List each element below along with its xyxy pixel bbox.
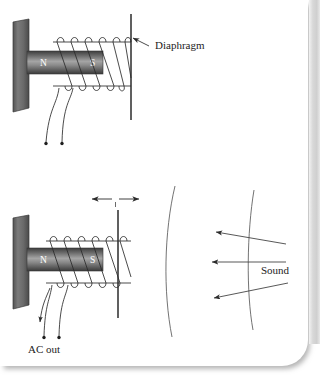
lead-terminal-dot <box>57 336 60 339</box>
lead-terminal-dot <box>42 336 45 339</box>
mounting-wall-top <box>13 19 29 112</box>
bottom-panel: N S <box>13 186 290 355</box>
lead-terminal-dot <box>60 142 63 145</box>
diaphragm-pointer <box>133 38 149 46</box>
lead-terminal-dot <box>44 142 47 145</box>
bar-magnet-bottom: N S <box>27 248 103 271</box>
mounting-wall-bottom <box>13 215 29 309</box>
vibration-arrow <box>92 199 139 207</box>
ac-current-arrow <box>40 288 50 322</box>
ac-out-label: AC out <box>28 343 60 355</box>
north-pole-label-bottom: N <box>40 255 47 265</box>
sound-label: Sound <box>261 264 290 276</box>
north-pole-label-top: N <box>40 58 47 68</box>
physics-diagram: N S <box>0 0 320 383</box>
sound-wavefronts <box>166 186 254 337</box>
top-panel: N S <box>13 14 205 145</box>
lead-wires-top <box>46 88 73 142</box>
figure-page: N S <box>0 0 320 383</box>
diaphragm-label: Diaphragm <box>155 39 205 51</box>
south-pole-label-bottom: S <box>90 255 95 265</box>
